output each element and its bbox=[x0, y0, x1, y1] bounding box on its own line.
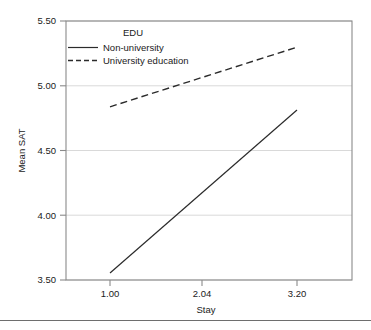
legend-label-university-education: University education bbox=[103, 55, 189, 66]
mean-sat-by-stay-line-chart: 3.50 4.00 4.50 5.00 5.50 1.00 2.04 3.20 … bbox=[0, 0, 371, 330]
y-tick-label-5-50: 5.50 bbox=[38, 15, 57, 26]
legend-label-non-university: Non-university bbox=[103, 42, 164, 53]
x-tick-label-2-04: 2.04 bbox=[193, 288, 212, 299]
legend-title: EDU bbox=[123, 27, 143, 38]
x-axis-title: Stay bbox=[196, 304, 215, 315]
x-tick-label-1-00: 1.00 bbox=[101, 288, 120, 299]
chart-figure: 3.50 4.00 4.50 5.00 5.50 1.00 2.04 3.20 … bbox=[0, 0, 371, 330]
x-tick-label-3-20: 3.20 bbox=[288, 288, 307, 299]
y-tick-label-5-00: 5.00 bbox=[38, 80, 57, 91]
y-tick-label-4-00: 4.00 bbox=[38, 210, 57, 221]
y-axis-title: Mean SAT bbox=[16, 128, 27, 172]
y-tick-label-3-50: 3.50 bbox=[38, 274, 57, 285]
y-tick-label-4-50: 4.50 bbox=[38, 145, 57, 156]
